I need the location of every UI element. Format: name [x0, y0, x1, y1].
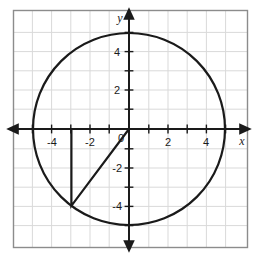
- x-tick-label-neg4: -4: [47, 136, 57, 148]
- coordinate-plane-figure: -4 -2 2 4 4 2 -2 -4 0 y x: [0, 0, 258, 259]
- y-tick-label-4: 4: [114, 46, 120, 58]
- y-tick-label-2: 2: [114, 84, 120, 96]
- x-tick-label-4: 4: [203, 136, 209, 148]
- y-axis-label: y: [116, 11, 123, 25]
- x-axis-label: x: [238, 134, 245, 148]
- x-tick-label-2: 2: [165, 136, 171, 148]
- y-tick-label-neg2: -2: [112, 162, 122, 174]
- graph-canvas: -4 -2 2 4 4 2 -2 -4 0 y x: [0, 0, 258, 259]
- y-tick-label-neg4: -4: [112, 200, 122, 212]
- x-tick-label-neg2: -2: [85, 136, 95, 148]
- origin-label: 0: [118, 132, 124, 144]
